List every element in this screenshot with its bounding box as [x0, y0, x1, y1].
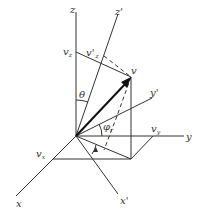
label-vx: vx	[36, 148, 46, 160]
vy-foot-line	[131, 136, 153, 159]
label-v: v	[131, 65, 137, 76]
label-z-prime: z'	[114, 6, 123, 17]
label-vy: vy	[151, 123, 161, 136]
label-vz: vz	[63, 46, 73, 58]
label-v-prime-z: v'z	[86, 47, 99, 59]
label-x: x	[16, 198, 22, 209]
rotation-diagram: z z' vz v'z v θ y' φr vy y vx x x'	[0, 0, 197, 216]
label-phi: φr	[103, 121, 114, 133]
phi-arc	[99, 124, 102, 136]
label-z: z	[69, 4, 76, 15]
label-y-prime: y'	[149, 87, 158, 98]
label-x-prime: x'	[120, 195, 128, 206]
label-theta: θ	[79, 89, 85, 100]
label-y: y	[185, 131, 192, 142]
x-axis	[16, 136, 76, 196]
theta-arc	[76, 100, 88, 102]
